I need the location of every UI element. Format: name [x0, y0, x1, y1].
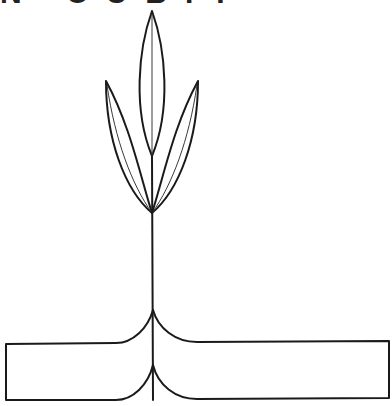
- stem: [152, 156, 153, 400]
- plant-diagram: [0, 0, 392, 406]
- base-left-block: [6, 310, 153, 400]
- right-leaf: [152, 81, 198, 213]
- left-leaf: [106, 81, 152, 213]
- center-leaf: [140, 11, 165, 156]
- base-right-block: [153, 310, 389, 399]
